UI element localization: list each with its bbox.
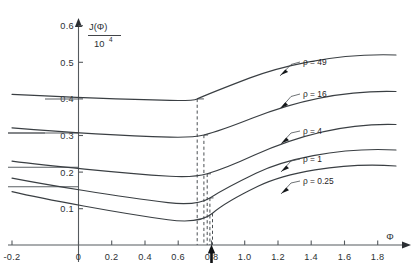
y-axis-title-exponent: 4 <box>109 36 113 43</box>
y-axis-title-numerator: J(Φ) <box>89 21 107 32</box>
leader-arrowhead-rho49 <box>280 70 288 76</box>
y-tick-label: 0.2 <box>60 168 74 178</box>
x-ticks-group <box>12 241 378 246</box>
series-label-rho49: ρ = 49 <box>303 57 327 67</box>
x-marker-arrowhead <box>208 245 215 254</box>
x-tick-labels-group: -0.2 0 0.2 0.4 0.6 0.8 1.0 1.2 1.4 1.6 1… <box>3 252 384 262</box>
series-label-rho16: ρ = 16 <box>303 89 327 99</box>
leader-arrowhead-rho025 <box>281 188 289 194</box>
leader-arrowhead-rho1 <box>281 166 289 172</box>
x-tick-label: 1.4 <box>304 252 318 262</box>
chart-figure: -0.2 0 0.2 0.4 0.6 0.8 1.0 1.2 1.4 1.6 1… <box>0 0 418 274</box>
y-ticks-group <box>79 26 84 209</box>
x-marker-stem <box>210 253 213 264</box>
x-tick-label: 0.4 <box>138 252 152 262</box>
series-labels-group: ρ = 49 ρ = 16 ρ = 4 ρ = 1 ρ = 0.25 <box>303 57 334 186</box>
x-axis-arrowhead <box>402 241 411 248</box>
x-tick-label: -0.2 <box>3 252 20 262</box>
x-tick-label: 1.6 <box>338 252 352 262</box>
x-tick-label: 1.0 <box>238 252 252 262</box>
y-axis-title-denominator: 10 <box>94 38 104 49</box>
x-tick-label: 1.2 <box>271 252 285 262</box>
x-tick-label: 0.6 <box>171 252 185 262</box>
y-tick-label: 0.1 <box>60 204 74 214</box>
y-tick-label: 0.5 <box>60 58 74 68</box>
annotation-leaders-group <box>280 62 300 194</box>
x-tick-label: 0 <box>76 252 81 262</box>
series-label-rho025: ρ = 0.25 <box>303 176 334 186</box>
y-tick-labels-group: 0.1 0.2 0.3 0.4 0.5 0.6 <box>60 21 74 214</box>
x-tick-label: 1.8 <box>371 252 385 262</box>
series-label-rho4: ρ = 4 <box>303 126 322 136</box>
chart-svg: -0.2 0 0.2 0.4 0.6 0.8 1.0 1.2 1.4 1.6 1… <box>0 0 418 274</box>
minima-connector-group <box>197 99 213 198</box>
x-tick-label: 0.2 <box>105 252 119 262</box>
x-axis-title: Φ <box>386 231 393 242</box>
y-tick-label: 0.6 <box>60 21 74 31</box>
y-axis-title: J(Φ) 10 4 <box>88 21 121 49</box>
series-label-rho1: ρ = 1 <box>303 154 322 164</box>
minima-dashed-lines-group <box>197 99 212 245</box>
